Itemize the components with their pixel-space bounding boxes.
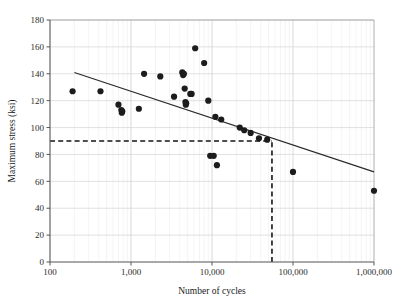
y-tick-label: 60 (35, 177, 45, 187)
data-point (290, 169, 296, 175)
x-tick-label: 100 (43, 267, 57, 277)
data-point (136, 106, 142, 112)
x-tick-label: 1,000,000 (356, 267, 393, 277)
data-point (141, 71, 147, 77)
data-point (264, 137, 270, 143)
data-point (181, 71, 187, 77)
chart-canvas: 1001,00010,000100,0001,000,000 020406080… (0, 0, 413, 308)
data-point (371, 188, 377, 194)
x-tick-label: 1,000 (121, 267, 142, 277)
data-point (119, 108, 125, 114)
data-point (171, 94, 177, 100)
data-point (157, 73, 163, 79)
y-tick-label: 160 (31, 42, 45, 52)
x-tick-label: 10,000 (200, 267, 225, 277)
data-point (183, 100, 189, 106)
data-point (201, 60, 207, 66)
data-point (182, 85, 188, 91)
data-point (205, 98, 211, 104)
data-point (218, 116, 224, 122)
data-point (248, 130, 254, 136)
data-point (97, 88, 103, 94)
data-point (241, 127, 247, 133)
data-point (192, 45, 198, 51)
data-point (256, 135, 262, 141)
y-tick-label: 40 (35, 203, 45, 213)
x-tick-label: 100,000 (278, 267, 308, 277)
data-point (115, 102, 121, 108)
y-tick-label: 180 (31, 15, 45, 25)
fatigue-sn-chart: 1001,00010,000100,0001,000,000 020406080… (0, 0, 413, 308)
data-point (212, 114, 218, 120)
y-tick-label: 0 (40, 257, 45, 267)
y-tick-label: 120 (31, 96, 45, 106)
y-tick-label: 20 (35, 230, 45, 240)
data-point (189, 91, 195, 97)
x-axis-title: Number of cycles (178, 286, 246, 296)
y-axis-title: Maximum stress (ksi) (7, 100, 18, 183)
data-point (211, 153, 217, 159)
y-tick-label: 100 (31, 123, 45, 133)
y-tick-label: 140 (31, 69, 45, 79)
data-point (214, 162, 220, 168)
y-tick-label: 80 (35, 150, 45, 160)
data-point (69, 88, 75, 94)
